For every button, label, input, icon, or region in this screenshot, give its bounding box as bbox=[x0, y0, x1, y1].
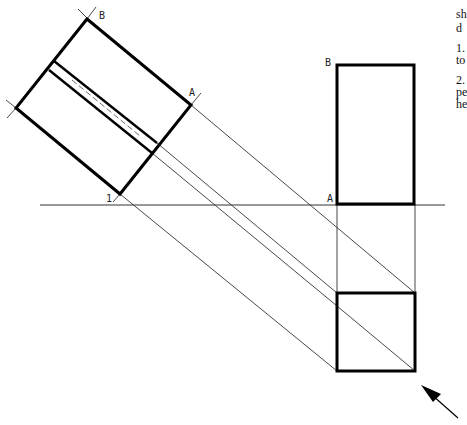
hidden-line bbox=[72, 80, 140, 136]
side-text-line-4: to bbox=[456, 54, 465, 66]
tick-b-ext bbox=[87, 7, 96, 19]
front-view-rectangle bbox=[337, 65, 414, 204]
projection-line-inner-2 bbox=[152, 153, 337, 306]
label-rotated-a: A bbox=[189, 87, 195, 98]
projection-line-1 bbox=[120, 194, 337, 371]
tick-left-ext bbox=[7, 108, 16, 118]
rotated-rectangle bbox=[16, 19, 191, 194]
side-text-line-1: sh bbox=[456, 8, 467, 20]
label-front-b: B bbox=[325, 57, 331, 68]
side-text-line-2: d bbox=[456, 22, 462, 34]
corner-ticks bbox=[6, 7, 201, 202]
bottom-square-diagonal bbox=[337, 306, 415, 371]
label-rotated-b: B bbox=[99, 10, 105, 21]
tick-1 bbox=[113, 194, 120, 202]
rotated-view bbox=[16, 19, 191, 194]
side-text-line-7: he bbox=[456, 98, 467, 110]
rotated-inner-line-2 bbox=[49, 70, 152, 153]
label-rotated-1: 1 bbox=[106, 193, 112, 204]
bottom-view-square bbox=[337, 293, 415, 371]
view-direction-arrow bbox=[421, 385, 458, 418]
arrow-head-icon bbox=[421, 385, 441, 402]
projection-line-inner-1 bbox=[157, 143, 337, 293]
rotated-inner-line-1 bbox=[54, 61, 157, 143]
projection-lines bbox=[120, 105, 415, 371]
label-front-a: A bbox=[327, 193, 333, 204]
